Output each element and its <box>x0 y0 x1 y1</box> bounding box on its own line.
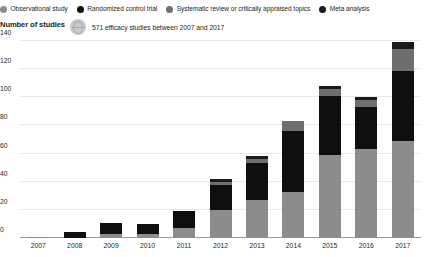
bar-segment[interactable] <box>64 232 86 238</box>
bar-segment[interactable] <box>319 155 341 238</box>
circle-marker-icon <box>0 6 7 13</box>
x-axis-labels: 2007200820092010201120122013201420152016… <box>20 241 421 253</box>
legend-item-systematic-review: Systematic review or critically appraise… <box>166 5 310 13</box>
bar-segment[interactable] <box>137 234 159 238</box>
globe-icon <box>70 19 86 35</box>
bar-group[interactable] <box>355 97 377 238</box>
x-axis-tick-label: 2013 <box>239 241 275 250</box>
bar-segment[interactable] <box>100 234 122 238</box>
bar-segment[interactable] <box>319 89 341 96</box>
bar-segment[interactable] <box>173 228 195 238</box>
bar-segment[interactable] <box>246 200 268 238</box>
bar-group[interactable] <box>64 232 86 238</box>
bar-segment[interactable] <box>27 237 49 238</box>
chart-plot-area: 020406080100120140 <box>20 41 421 238</box>
circle-marker-icon <box>319 6 326 13</box>
bar-segment[interactable] <box>246 163 268 200</box>
bar-segment[interactable] <box>355 149 377 238</box>
y-axis-tick-label: 60 <box>0 142 16 150</box>
legend-item-label: Randomized control trial <box>87 5 157 13</box>
x-axis-tick-label: 2010 <box>129 241 165 250</box>
x-axis-tick-label: 2016 <box>348 241 384 250</box>
x-axis-tick-label: 2012 <box>202 241 238 250</box>
bar-series-container <box>20 41 421 238</box>
x-axis-tick-label: 2008 <box>56 241 92 250</box>
chart-legend: Observational study Randomized control t… <box>0 2 425 16</box>
bar-segment[interactable] <box>137 224 159 234</box>
bar-segment[interactable] <box>392 42 414 49</box>
bar-segment[interactable] <box>355 107 377 149</box>
y-axis-tick-label: 140 <box>0 29 16 37</box>
legend-item-observational-study: Observational study <box>0 5 68 13</box>
bar-segment[interactable] <box>282 192 304 238</box>
x-axis-tick-label: 2011 <box>166 241 202 250</box>
legend-item-label: Observational study <box>11 5 68 13</box>
y-axis-tick-label: 80 <box>0 113 16 121</box>
bar-segment[interactable] <box>173 211 195 228</box>
chart-annotation-text: 571 efficacy studies between 2007 and 20… <box>92 23 224 32</box>
y-axis-tick-label: 100 <box>0 85 16 93</box>
bar-group[interactable] <box>137 224 159 238</box>
legend-item-meta-analysis: Meta analysis <box>319 5 369 13</box>
bar-segment[interactable] <box>210 210 232 238</box>
bar-segment[interactable] <box>319 96 341 155</box>
circle-marker-icon <box>77 6 84 13</box>
x-axis-tick-label: 2014 <box>275 241 311 250</box>
legend-item-randomized-control-trial: Randomized control trial <box>77 5 157 13</box>
bar-segment[interactable] <box>392 49 414 70</box>
bar-group[interactable] <box>27 237 49 238</box>
y-axis-tick-label: 40 <box>0 170 16 178</box>
legend-item-label: Systematic review or critically appraise… <box>177 5 311 13</box>
x-axis-tick-label: 2009 <box>93 241 129 250</box>
bar-group[interactable] <box>210 179 232 238</box>
bar-segment[interactable] <box>282 131 304 192</box>
bar-segment[interactable] <box>392 141 414 238</box>
bar-segment[interactable] <box>392 71 414 141</box>
circle-marker-icon <box>166 6 173 13</box>
legend-item-label: Meta analysis <box>330 5 370 13</box>
bar-group[interactable] <box>100 223 122 238</box>
bar-segment[interactable] <box>282 121 304 131</box>
y-axis-tick-label: 0 <box>0 226 16 234</box>
bar-group[interactable] <box>282 121 304 238</box>
x-axis-tick-label: 2017 <box>385 241 421 250</box>
bar-segment[interactable] <box>210 185 232 210</box>
bar-group[interactable] <box>246 156 268 238</box>
x-axis-tick-label: 2007 <box>20 241 56 250</box>
x-axis-tick-label: 2015 <box>312 241 348 250</box>
y-axis-tick-label: 20 <box>0 198 16 206</box>
bar-group[interactable] <box>392 42 414 238</box>
chart-annotation: 571 efficacy studies between 2007 and 20… <box>70 19 224 35</box>
y-axis-tick-label: 120 <box>0 57 16 65</box>
bar-group[interactable] <box>319 86 341 238</box>
bar-segment[interactable] <box>100 223 122 234</box>
bar-segment[interactable] <box>355 100 377 107</box>
bar-group[interactable] <box>173 211 195 238</box>
